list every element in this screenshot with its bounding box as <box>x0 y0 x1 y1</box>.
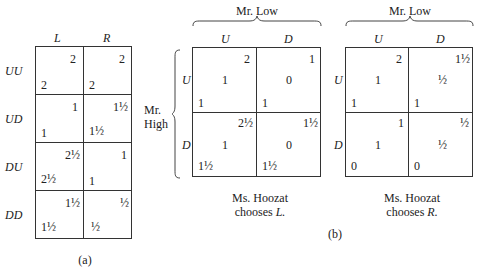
row-label-DU: DU <box>5 160 22 175</box>
row-label-DD: DD <box>5 208 22 223</box>
payoff-top: 2½ <box>65 149 80 161</box>
caption-line2: chooses <box>235 205 273 219</box>
payoff-bottom: 1 <box>262 97 268 109</box>
divider <box>192 112 321 113</box>
payoff-bottom: 2½ <box>41 173 56 185</box>
payoff-bottom: 2 <box>41 79 47 91</box>
panel-a-label: (a) <box>70 253 100 267</box>
payoff-top: 1½ <box>303 117 318 129</box>
caption-line1: Ms. Hoozat <box>220 191 300 205</box>
col-header-U: U <box>221 32 230 47</box>
payoff-bottom: 1 <box>89 175 95 187</box>
payoff-top: ½ <box>460 117 469 129</box>
payoff-top: 2 <box>70 53 76 65</box>
row-header-U: U <box>334 73 343 88</box>
row-label-UD: UD <box>5 112 22 127</box>
col-header-R: R <box>103 31 110 46</box>
divider <box>345 112 473 113</box>
caption-choose-R: Ms. Hoozat chooses R. <box>372 191 452 219</box>
payoff-bottom: 1½ <box>262 160 277 172</box>
payoff-bottom: 2 <box>89 79 95 91</box>
payoff-top: 1 <box>121 149 127 161</box>
col-header-D: D <box>436 32 445 47</box>
payoff-bottom: 1 <box>414 97 420 109</box>
divider <box>35 190 132 191</box>
payoff-top: 2 <box>119 53 125 65</box>
col-header-L: L <box>54 31 61 46</box>
payoff-top: 2 <box>244 53 250 65</box>
row-player-label: Mr. High <box>144 103 168 131</box>
column-brace-icon <box>193 16 321 28</box>
col-header-D: D <box>284 32 293 47</box>
divider <box>35 142 132 143</box>
payoff-bottom: 1½ <box>89 125 104 137</box>
payoff-top: 1½ <box>113 101 128 113</box>
payoff-mid: ½ <box>438 139 447 151</box>
column-brace-icon <box>346 16 473 28</box>
payoff-bottom: 1 <box>198 97 204 109</box>
row-header-D: D <box>182 138 191 153</box>
payoff-top: 1½ <box>455 53 470 65</box>
payoff-mid: 0 <box>286 74 292 86</box>
payoff-bottom: ½ <box>91 221 100 233</box>
payoff-mid: 0 <box>286 139 292 151</box>
row-brace-icon <box>172 50 182 178</box>
caption-choice: L. <box>276 205 286 219</box>
row-header-D: D <box>334 138 343 153</box>
payoff-mid: 1 <box>375 74 381 86</box>
caption-line2: chooses <box>386 205 424 219</box>
payoff-mid: 1 <box>222 74 228 86</box>
panel-b-label: (b) <box>320 227 350 241</box>
payoff-top: 2½ <box>238 117 253 129</box>
payoff-top: 1 <box>309 53 315 65</box>
row-player-line2: High <box>144 117 168 131</box>
row-player-line1: Mr. <box>144 103 168 117</box>
payoff-bottom: 1½ <box>41 221 56 233</box>
payoff-mid: ½ <box>438 74 447 86</box>
payoff-top: 1 <box>398 117 404 129</box>
divider <box>35 94 132 95</box>
row-label-UU: UU <box>5 64 22 79</box>
payoff-bottom: 1½ <box>198 160 213 172</box>
payoff-bottom: 1 <box>41 127 47 139</box>
payoff-top: 1 <box>72 101 78 113</box>
caption-choose-L: Ms. Hoozat chooses L. <box>220 191 300 219</box>
caption-choice: R. <box>427 205 437 219</box>
payoff-bottom: 0 <box>351 160 357 172</box>
payoff-top: 2 <box>396 53 402 65</box>
payoff-top: 1½ <box>65 197 80 209</box>
caption-line1: Ms. Hoozat <box>372 191 452 205</box>
col-header-U: U <box>374 32 383 47</box>
payoff-top: ½ <box>120 197 129 209</box>
payoff-mid: 1 <box>375 139 381 151</box>
payoff-bottom: 1 <box>351 97 357 109</box>
payoff-mid: 1 <box>222 139 228 151</box>
row-header-U: U <box>182 73 191 88</box>
payoff-bottom: 0 <box>414 160 420 172</box>
